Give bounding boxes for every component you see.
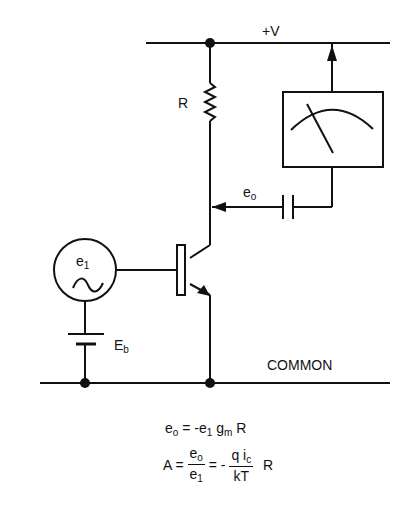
eq2-fraction-eo-e1: eo e1 xyxy=(188,446,205,484)
meter-arrow xyxy=(327,45,337,61)
eq1-lhs: e xyxy=(165,420,173,436)
eq2-lhs: A = xyxy=(163,457,184,473)
output-label-main: e xyxy=(243,184,251,200)
bias-label-main: E xyxy=(114,337,123,353)
source-label: e1 xyxy=(76,254,89,271)
eq2-frac1-num-sub: o xyxy=(197,452,203,463)
equation-gain: A = eo e1 = - q ic kT R xyxy=(163,446,273,484)
eq1-rhs-b: g xyxy=(212,420,224,436)
bias-label-sub: b xyxy=(123,344,129,355)
eq1-rhs-c: R xyxy=(232,420,246,436)
eq1-rhs-a: = -e xyxy=(182,420,207,436)
eq2-frac2-num-sub: c xyxy=(246,454,251,465)
node-supply xyxy=(205,38,215,48)
bias-label: Eb xyxy=(114,338,129,355)
resistor-label: R xyxy=(178,96,188,110)
common-label: COMMON xyxy=(267,358,332,372)
eq2-mid: = - xyxy=(209,457,226,473)
emitter-arrow xyxy=(197,285,210,296)
output-label: eo xyxy=(243,185,256,202)
supply-label: +V xyxy=(262,24,280,38)
equation-output: eo = -e1 gm R xyxy=(165,421,246,438)
source-label-sub: 1 xyxy=(84,260,90,271)
eq2-frac2-den: kT xyxy=(229,467,253,483)
node-common-battery xyxy=(80,378,90,388)
eq2-frac2-num: q i xyxy=(231,447,246,463)
resistor-r xyxy=(205,83,215,121)
eq2-frac1-den-sub: 1 xyxy=(197,473,203,484)
output-label-sub: o xyxy=(251,191,257,202)
collector-lead xyxy=(190,245,210,258)
source-label-main: e xyxy=(76,253,84,269)
node-common-emitter xyxy=(205,378,215,388)
output-arrow xyxy=(212,202,226,212)
eq1-lhs-sub: o xyxy=(173,427,179,438)
meter-box xyxy=(283,92,383,167)
transistor-base-bar xyxy=(177,245,185,295)
eq2-tail: R xyxy=(263,457,273,473)
eq2-fraction-qic-kt: q ic kT xyxy=(229,448,253,483)
